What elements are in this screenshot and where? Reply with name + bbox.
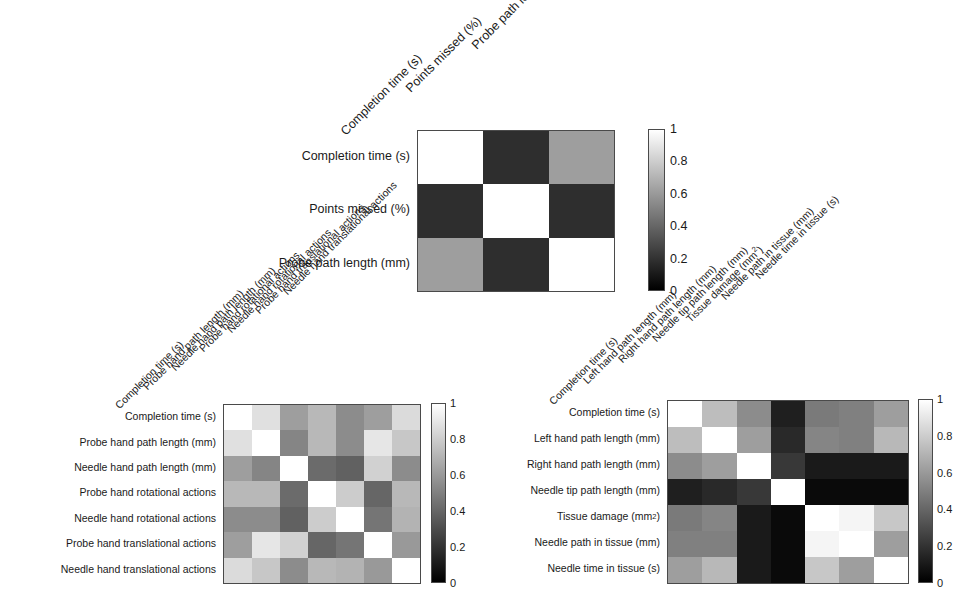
panel-bottom-right-colorbar-gradient xyxy=(918,399,933,583)
column-label: Probe hand path length (mm) xyxy=(141,288,245,392)
heatmap-cell xyxy=(874,479,908,505)
panel-top-colorbar-gradient xyxy=(648,129,665,291)
row-label: Probe hand translational actions xyxy=(6,531,222,556)
heatmap-cell xyxy=(805,505,839,531)
row-label: Probe path length (mm) xyxy=(230,237,416,290)
row-label: Needle hand rotational actions xyxy=(6,506,222,531)
heatmap-cell xyxy=(364,405,392,430)
colorbar-tick-label: 0.8 xyxy=(670,155,687,168)
colorbar-tick-label: 0.8 xyxy=(937,430,952,441)
heatmap-cell xyxy=(737,479,771,505)
heatmap-cell xyxy=(392,481,420,506)
row-label: Completion time (s) xyxy=(480,400,666,426)
column-label: Completion time (s) xyxy=(113,339,185,411)
column-label: Completion time (s) xyxy=(339,52,425,138)
superscript-two: 2 xyxy=(652,513,656,521)
heatmap-cell xyxy=(252,456,280,481)
panel-top-colorbar: 10.80.60.40.20 xyxy=(648,129,665,291)
heatmap-cell xyxy=(668,401,702,427)
colorbar-tick-label: 0 xyxy=(450,578,456,589)
heatmap-cell xyxy=(224,430,252,455)
heatmap-cell xyxy=(771,453,805,479)
heatmap-cell xyxy=(308,405,336,430)
heatmap-cell xyxy=(392,430,420,455)
heatmap-cell xyxy=(336,507,364,532)
heatmap-cell xyxy=(771,401,805,427)
heatmap-cell xyxy=(549,131,614,184)
heatmap-cell xyxy=(224,558,252,583)
heatmap-cell xyxy=(805,401,839,427)
heatmap-cell xyxy=(280,532,308,557)
heatmap-cell xyxy=(702,557,736,583)
panel-bottom-right-heatmap[interactable] xyxy=(667,400,909,584)
heatmap-cell xyxy=(805,427,839,453)
column-label: Needle path in tissue (mm) xyxy=(719,206,816,303)
heatmap-cell xyxy=(549,238,614,291)
row-label: Completion time (s) xyxy=(6,404,222,429)
heatmap-cell xyxy=(336,558,364,583)
heatmap-cell xyxy=(224,481,252,506)
heatmap-cell xyxy=(308,430,336,455)
colorbar-tick-label: 0.6 xyxy=(670,188,687,201)
panel-top-heatmap[interactable] xyxy=(417,130,615,292)
heatmap-cell xyxy=(392,507,420,532)
panel-bottom-right-colorbar: 10.80.60.40.20 xyxy=(918,399,933,583)
row-label: Right hand path length (mm) xyxy=(480,452,666,478)
heatmap-cell xyxy=(308,558,336,583)
colorbar-tick-label: 0 xyxy=(937,578,943,589)
heatmap-cell xyxy=(702,427,736,453)
heatmap-cell xyxy=(336,532,364,557)
panel-bottom-left-colorbar-gradient xyxy=(431,403,446,583)
panel-bottom-left-heatmap[interactable] xyxy=(223,404,421,584)
heatmap-cell xyxy=(805,453,839,479)
heatmap-cell xyxy=(364,532,392,557)
row-label: Needle hand path length (mm) xyxy=(6,455,222,480)
row-label: Needle hand translational actions xyxy=(6,557,222,582)
heatmap-cell xyxy=(252,558,280,583)
heatmap-cell xyxy=(364,507,392,532)
heatmap-cell xyxy=(737,427,771,453)
heatmap-cell xyxy=(252,430,280,455)
heatmap-cell xyxy=(252,405,280,430)
panel-top: Completion time (s)Points missed (%)Prob… xyxy=(0,0,700,300)
heatmap-cell xyxy=(805,557,839,583)
heatmap-cell xyxy=(874,401,908,427)
heatmap-cell xyxy=(771,531,805,557)
heatmap-cell xyxy=(839,505,873,531)
row-label: Points missed (%) xyxy=(230,183,416,236)
heatmap-cell xyxy=(364,481,392,506)
colorbar-tick-label: 0 xyxy=(670,285,677,298)
heatmap-cell xyxy=(874,453,908,479)
heatmap-cell xyxy=(308,507,336,532)
column-label: Points missed (%) xyxy=(404,15,485,96)
heatmap-cell xyxy=(668,557,702,583)
heatmap-cell xyxy=(737,531,771,557)
heatmap-cell xyxy=(874,531,908,557)
panel-bottom-left-colorbar: 10.80.60.40.20 xyxy=(431,403,446,583)
heatmap-cell xyxy=(771,505,805,531)
colorbar-tick-label: 0.2 xyxy=(450,542,465,553)
heatmap-cell xyxy=(702,531,736,557)
panel-bottom-left-row-labels: Completion time (s)Probe hand path lengt… xyxy=(6,404,222,582)
heatmap-cell xyxy=(483,131,548,184)
heatmap-cell xyxy=(308,456,336,481)
heatmap-cell xyxy=(224,532,252,557)
row-label: Needle tip path length (mm) xyxy=(480,478,666,504)
heatmap-cell xyxy=(252,481,280,506)
row-label: Completion time (s) xyxy=(230,130,416,183)
heatmap-cell xyxy=(483,238,548,291)
heatmap-cell xyxy=(839,453,873,479)
heatmap-cell xyxy=(483,184,548,237)
heatmap-cell xyxy=(224,456,252,481)
heatmap-cell xyxy=(668,479,702,505)
heatmap-cell xyxy=(364,456,392,481)
colorbar-tick-label: 0.8 xyxy=(450,434,465,445)
heatmap-cell xyxy=(252,532,280,557)
heatmap-cell xyxy=(839,557,873,583)
heatmap-cell xyxy=(336,405,364,430)
colorbar-tick-label: 0.4 xyxy=(937,504,952,515)
heatmap-cell xyxy=(280,456,308,481)
heatmap-cell xyxy=(392,456,420,481)
heatmap-cell xyxy=(839,427,873,453)
heatmap-cell xyxy=(737,401,771,427)
